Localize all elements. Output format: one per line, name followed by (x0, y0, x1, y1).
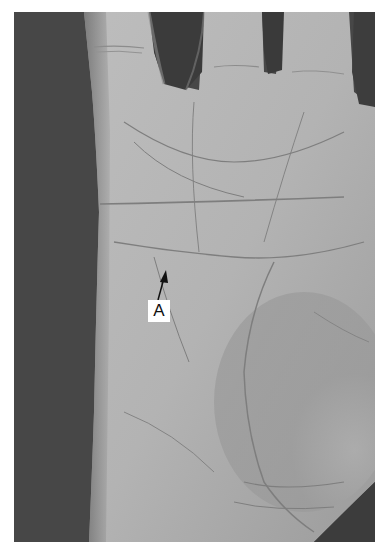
palm-photograph: A (14, 12, 375, 542)
annotation-label-a: A (148, 300, 170, 322)
palm-image (14, 12, 375, 542)
